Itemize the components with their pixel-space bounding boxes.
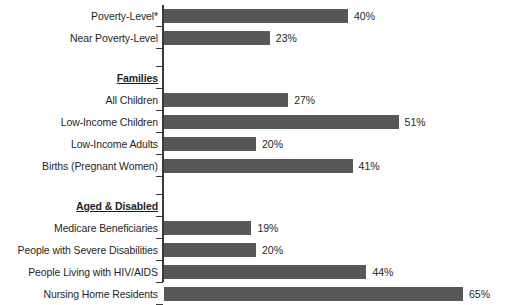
bar [164,221,251,235]
bar-wrapper [164,243,256,257]
bar-category-label: People with Severe Disabilities [18,239,158,261]
bar-category-label: Medicare Beneficiaries [54,217,158,239]
bar-value-label: 65% [469,287,490,301]
chart-bar-row: Poverty-Level*40% [0,5,513,27]
bar [164,265,366,279]
bar-category-label: Poverty-Level* [91,5,158,27]
chart-group-header-row: Families [0,67,513,89]
bar [164,243,256,257]
bar [164,115,399,129]
group-header-label: Aged & Disabled [76,195,158,217]
chart-group-header-row: Aged & Disabled [0,195,513,217]
chart-bar-row: All Children27% [0,89,513,111]
bar [164,9,348,23]
chart-bar-row: Near Poverty-Level23% [0,27,513,49]
bar-wrapper [164,93,288,107]
bar-wrapper [164,9,348,23]
bar-value-label: 20% [262,137,283,151]
chart-bar-row: Low-Income Children51% [0,111,513,133]
bar-category-label: Births (Pregnant Women) [42,155,158,177]
bar [164,137,256,151]
chart-bar-row: Births (Pregnant Women)41% [0,155,513,177]
chart-bar-row: People with Severe Disabilities20% [0,239,513,261]
bar-value-label: 41% [359,159,380,173]
bar-value-label: 51% [405,115,426,129]
chart-bar-row: Nursing Home Residents65% [0,283,513,305]
bar-category-label: Low-Income Children [61,111,158,133]
bar-value-label: 27% [294,93,315,107]
bar-wrapper [164,137,256,151]
bar-wrapper [164,31,270,45]
bar-value-label: 40% [354,9,375,23]
bar-category-label: People Living with HIV/AIDS [28,261,158,283]
bar-wrapper [164,287,463,301]
bar-wrapper [164,115,399,129]
bar [164,31,270,45]
bar-category-label: Nursing Home Residents [43,283,158,305]
chart-row-spacer [0,177,513,195]
bar-value-label: 20% [262,243,283,257]
bar-value-label: 19% [257,221,278,235]
bar-category-label: All Children [106,89,159,111]
bar-wrapper [164,265,366,279]
bar [164,93,288,107]
chart-bar-row: Medicare Beneficiaries19% [0,217,513,239]
bar-value-label: 23% [276,31,297,45]
chart-row-spacer [0,49,513,67]
chart-bar-row: People Living with HIV/AIDS44% [0,261,513,283]
chart-bar-row: Low-Income Adults20% [0,133,513,155]
bar-category-label: Near Poverty-Level [70,27,158,49]
bar-wrapper [164,159,353,173]
bar-value-label: 44% [372,265,393,279]
bar [164,287,463,301]
group-header-label: Families [117,67,158,89]
bar [164,159,353,173]
bar-wrapper [164,221,251,235]
bar-category-label: Low-Income Adults [71,133,158,155]
